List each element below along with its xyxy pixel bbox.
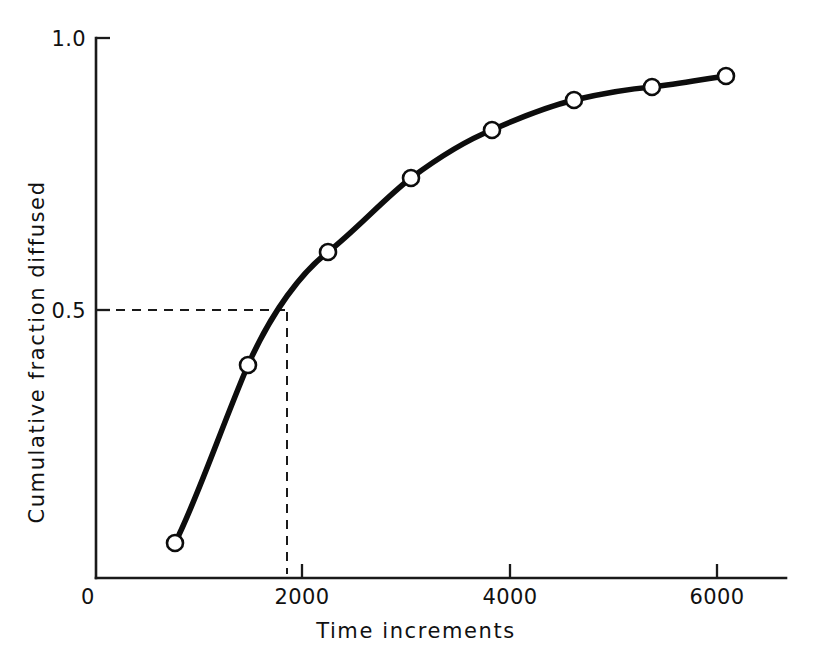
x-tick-label-0: 0 [81, 585, 95, 609]
y-tick-label-mid: 0.5 [51, 299, 86, 323]
data-point-marker [320, 244, 336, 260]
data-series-line [175, 76, 726, 543]
data-point-marker [566, 92, 582, 108]
data-point-marker [718, 68, 734, 84]
x-tick-label-6000: 6000 [689, 585, 744, 609]
data-point-marker [240, 357, 256, 373]
figure-container: 1.0 0.5 0 2000 4000 6000 Cumulative frac… [0, 0, 815, 658]
x-tick-label-2000: 2000 [274, 585, 329, 609]
data-point-marker [403, 170, 419, 186]
y-axis-title: Cumulative fraction diffused [25, 180, 49, 523]
data-point-marker [644, 79, 660, 95]
data-point-marker [167, 535, 183, 551]
x-tick-label-4000: 4000 [482, 585, 537, 609]
chart-plot: 1.0 0.5 0 2000 4000 6000 Cumulative frac… [0, 0, 815, 658]
x-axis-title: Time increments [315, 619, 516, 643]
y-tick-label-top: 1.0 [51, 27, 86, 51]
data-point-marker [484, 122, 500, 138]
